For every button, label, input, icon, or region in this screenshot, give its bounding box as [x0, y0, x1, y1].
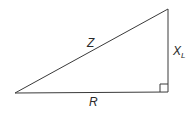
label-r: R [89, 95, 98, 109]
base-side-r [15, 92, 168, 93]
right-angle-marker [160, 84, 168, 92]
label-x-subscript: L [181, 51, 185, 60]
impedance-triangle-diagram: Z X L R [0, 0, 190, 113]
label-z: Z [86, 36, 95, 50]
hypotenuse-side-z [15, 9, 168, 93]
